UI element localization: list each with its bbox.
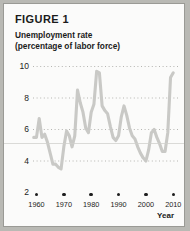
x-axis-dot-1970: [62, 193, 65, 196]
unemployment-rate-line: [34, 71, 174, 169]
x-axis-tick-2000: 2000: [131, 200, 161, 209]
x-axis-title: Year: [157, 211, 174, 220]
chart-plot-area: [4, 4, 185, 227]
x-axis-tick-2010: 2010: [158, 200, 185, 209]
x-axis-dot-2000: [144, 193, 147, 196]
x-axis-tick-1990: 1990: [104, 200, 134, 209]
x-axis-tick-1960: 1960: [21, 200, 51, 209]
x-axis-tick-1970: 1970: [49, 200, 79, 209]
scan-artifact-line: [4, 143, 185, 144]
figure-card: FIGURE 1 Unemployment rate (percentage o…: [3, 3, 185, 227]
x-axis-tick-1980: 1980: [76, 200, 106, 209]
unemployment-line-chart: [4, 4, 185, 227]
